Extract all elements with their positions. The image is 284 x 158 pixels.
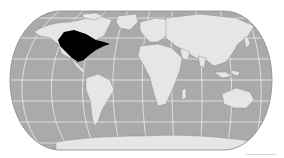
world-map — [0, 0, 284, 158]
scale-bar — [246, 154, 276, 155]
region-antarctica — [56, 135, 256, 158]
